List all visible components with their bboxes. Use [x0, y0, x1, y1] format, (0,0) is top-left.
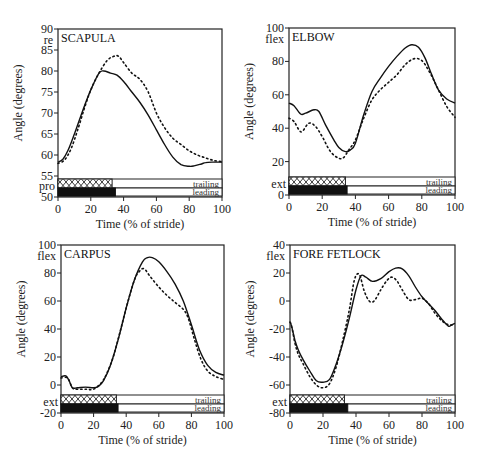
fore-fetlock-panel: -80-60-40-2002040020406080100flexextFORE… — [243, 238, 464, 447]
x-tick-label: 80 — [185, 418, 197, 432]
x-tick-label: 20 — [88, 418, 100, 432]
y-tick-label: 60 — [272, 88, 284, 102]
y-axis-label: Angle (degrees) — [243, 281, 257, 358]
x-tick-label: 80 — [416, 418, 428, 432]
y-tick-label: 20 — [273, 266, 285, 280]
leading-limb-curve — [290, 274, 455, 388]
extension-annotation: ext — [272, 395, 287, 409]
y-tick-label: 0 — [279, 294, 285, 308]
x-tick-label: 40 — [118, 202, 130, 216]
x-tick-label: 60 — [153, 418, 165, 432]
flexion-annotation: flex — [265, 32, 284, 46]
leading-limb-curve — [289, 58, 455, 158]
panel-title: ELBOW — [292, 30, 335, 44]
plot-frame — [290, 245, 455, 413]
x-tick-label: 0 — [286, 200, 292, 214]
trailing-limb-curve — [61, 257, 224, 388]
x-tick-label: 40 — [120, 418, 132, 432]
leading-phase-bar: leading — [58, 187, 222, 197]
y-tick-label: 70 — [41, 106, 53, 120]
y-tick-label: -40 — [269, 350, 285, 364]
panel-title: FORE FETLOCK — [293, 247, 381, 261]
x-tick-label: 100 — [446, 418, 464, 432]
y-tick-label: 20 — [272, 155, 284, 169]
y-tick-label: 20 — [44, 350, 56, 364]
x-tick-label: 40 — [350, 418, 362, 432]
leading-phase-bar: leading — [289, 185, 455, 195]
y-axis-label: Angle (degrees) — [11, 65, 25, 142]
leading-phase-bar: leading — [290, 403, 455, 413]
y-tick-label: -60 — [269, 378, 285, 392]
x-axis-label: Time (% of stride) — [96, 217, 185, 231]
leading-label: leading — [426, 403, 453, 413]
y-tick-label: 40 — [44, 322, 56, 336]
x-axis-label: Time (% of stride) — [328, 215, 417, 229]
panel-title: CARPUS — [64, 247, 111, 261]
y-tick-label: 80 — [272, 54, 284, 68]
leading-label: leading — [426, 185, 453, 195]
x-tick-label: 0 — [287, 418, 293, 432]
x-tick-label: 20 — [85, 202, 97, 216]
leading-label: leading — [193, 187, 220, 197]
y-tick-label: 80 — [41, 64, 53, 78]
flexion-annotation: flex — [37, 249, 56, 263]
x-tick-label: 100 — [213, 202, 231, 216]
plot-frame — [289, 28, 455, 195]
x-axis-label: Time (% of stride) — [328, 433, 417, 447]
x-tick-label: 80 — [183, 202, 195, 216]
trailing-limb-curve — [58, 71, 222, 167]
y-tick-label: -20 — [269, 322, 285, 336]
leading-label: leading — [195, 403, 222, 413]
trailing-limb-curve — [289, 45, 455, 152]
extension-annotation: ext — [271, 177, 286, 191]
x-tick-label: 20 — [316, 200, 328, 214]
y-tick-label: 65 — [41, 127, 53, 141]
x-tick-label: 100 — [215, 418, 233, 432]
y-tick-label: 75 — [41, 85, 53, 99]
y-tick-label: 0 — [50, 378, 56, 392]
y-tick-label: 60 — [41, 148, 53, 162]
y-tick-label: 60 — [44, 294, 56, 308]
extension-annotation: pro — [39, 179, 55, 193]
x-tick-label: 60 — [383, 200, 395, 214]
x-tick-label: 0 — [55, 202, 61, 216]
leading-limb-curve — [61, 269, 224, 390]
y-tick-label: 80 — [44, 266, 56, 280]
x-tick-label: 60 — [383, 418, 395, 432]
figure: 505560657075808590020406080100reproSCAPU… — [0, 0, 486, 465]
x-tick-label: 40 — [349, 200, 361, 214]
x-axis-label: Time (% of stride) — [98, 433, 187, 447]
carpus-panel: -20020406080100020406080100flexextCARPUS… — [14, 238, 233, 447]
flexion-annotation: flex — [266, 249, 285, 263]
x-tick-label: 60 — [150, 202, 162, 216]
panel-title: SCAPULA — [61, 31, 116, 45]
extension-annotation: ext — [43, 395, 58, 409]
leading-phase-bar: leading — [61, 403, 224, 413]
flexion-annotation: re — [44, 33, 53, 47]
y-axis-label: Angle (degrees) — [242, 63, 256, 140]
y-tick-label: 40 — [272, 121, 284, 135]
y-axis-label: Angle (degrees) — [14, 281, 28, 358]
trailing-limb-curve — [290, 268, 455, 383]
x-tick-label: 80 — [416, 200, 428, 214]
x-tick-label: 100 — [446, 200, 464, 214]
elbow-panel: 020406080100020406080100flexextELBOWTime… — [242, 21, 464, 229]
x-tick-label: 20 — [317, 418, 329, 432]
x-tick-label: 0 — [58, 418, 64, 432]
scapula-panel: 505560657075808590020406080100reproSCAPU… — [11, 22, 231, 231]
